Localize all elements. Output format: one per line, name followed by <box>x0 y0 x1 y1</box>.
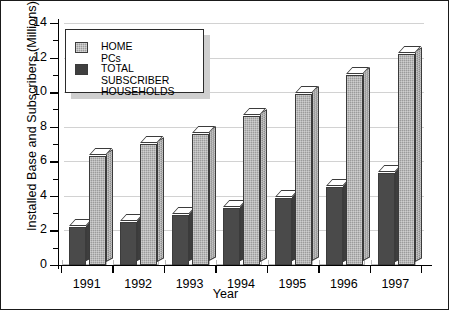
y-tick-label: 10 <box>21 86 47 96</box>
y-tick-major <box>50 92 59 93</box>
bar-side <box>209 126 216 261</box>
gridline <box>64 23 424 24</box>
legend-swatch <box>75 42 88 53</box>
bar-face <box>243 116 260 265</box>
y-tick-major <box>50 127 59 128</box>
bar-side <box>415 47 422 262</box>
y-tick-major <box>50 230 59 231</box>
x-tick <box>112 266 113 273</box>
bar-side <box>106 149 113 262</box>
bar-face <box>140 144 157 265</box>
y-tick-minor <box>53 40 59 41</box>
bar-home-pcs <box>243 116 260 265</box>
bar-face <box>223 208 240 265</box>
bar-home-pcs <box>295 94 312 265</box>
x-tick <box>215 266 216 273</box>
y-tick-label: 8 <box>21 121 47 131</box>
bar-subscriber-households <box>378 173 395 265</box>
bar-face <box>378 173 395 265</box>
bar-subscriber-households <box>120 222 137 265</box>
bar-face <box>295 94 312 265</box>
x-axis-line <box>58 265 432 266</box>
bar-subscriber-households <box>275 198 292 265</box>
legend-swatch <box>75 64 88 75</box>
bar-face <box>275 198 292 265</box>
bar-side <box>260 109 267 261</box>
y-tick-major <box>50 58 59 59</box>
bar-home-pcs <box>346 75 363 265</box>
x-tick <box>61 266 62 273</box>
bar-home-pcs <box>192 134 209 265</box>
y-tick-label: 6 <box>21 155 47 165</box>
bar-face <box>69 227 86 265</box>
bar-subscriber-households <box>69 227 86 265</box>
bar-subscriber-households <box>223 208 240 265</box>
legend-label: TOTAL SUBSCRIBER HOUSEHOLDS <box>101 63 175 98</box>
y-tick-minor <box>53 144 59 145</box>
x-tick <box>421 266 422 273</box>
y-tick-minor <box>53 213 59 214</box>
bar-face <box>326 187 343 265</box>
bar-side <box>157 137 164 262</box>
x-axis-title: Year <box>1 287 449 301</box>
bar-face <box>120 222 137 265</box>
legend-label: HOME PCs <box>101 41 133 64</box>
legend: HOME PCsTOTAL SUBSCRIBER HOUSEHOLDS <box>65 29 204 93</box>
chart-figure: Installed Base and Subscribers (Millions… <box>0 0 449 310</box>
bar-side <box>312 87 319 262</box>
bar-home-pcs <box>89 156 106 265</box>
x-tick <box>318 266 319 273</box>
y-tick-major <box>50 23 59 24</box>
x-tick <box>164 266 165 273</box>
bar-face <box>346 75 363 265</box>
bar-face <box>89 156 106 265</box>
bar-face <box>398 54 415 265</box>
bar-side <box>363 68 370 262</box>
y-tick-label: 12 <box>21 52 47 62</box>
y-tick-label: 4 <box>21 190 47 200</box>
y-tick-major <box>50 196 59 197</box>
x-tick <box>370 266 371 273</box>
y-tick-label: 14 <box>21 17 47 27</box>
bar-home-pcs <box>140 144 157 265</box>
y-tick-minor <box>53 109 59 110</box>
y-tick-major <box>50 161 59 162</box>
y-tick-label: 0 <box>21 259 47 269</box>
y-tick-minor <box>53 75 59 76</box>
y-tick-minor <box>53 179 59 180</box>
bar-face <box>192 134 209 265</box>
x-tick <box>267 266 268 273</box>
y-tick-label: 2 <box>21 224 47 234</box>
bar-home-pcs <box>398 54 415 265</box>
bar-subscriber-households <box>326 187 343 265</box>
bar-subscriber-households <box>172 215 189 265</box>
bar-face <box>172 215 189 265</box>
y-tick-minor <box>53 248 59 249</box>
